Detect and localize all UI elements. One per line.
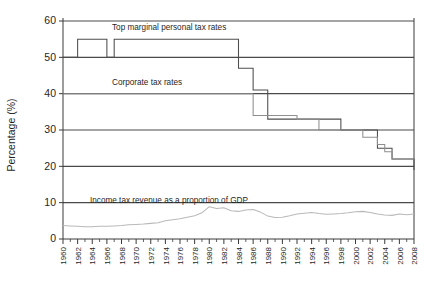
revenue-annotation: Income tax revenue as a proportion of GD… xyxy=(90,196,248,205)
corporate-annotation: Corporate tax rates xyxy=(112,78,182,87)
series-line-personal-tax xyxy=(63,39,414,170)
chart-container: 0102030405060 19601962196419661968197019… xyxy=(0,0,434,285)
x-tick-label-2008: 2008 xyxy=(410,246,419,264)
y-tick-label-40: 40 xyxy=(44,87,56,99)
y-tick-label-10: 10 xyxy=(44,196,56,208)
tax-rates-line-chart: 0102030405060 19601962196419661968197019… xyxy=(0,0,434,285)
x-tick-label-1968: 1968 xyxy=(118,246,127,264)
x-tick-label-1970: 1970 xyxy=(132,246,141,264)
x-tick-label-2004: 2004 xyxy=(381,246,390,264)
x-tick-label-1980: 1980 xyxy=(205,246,214,264)
x-tick-label-1962: 1962 xyxy=(74,246,83,264)
x-tick-label-1972: 1972 xyxy=(147,246,156,264)
x-tick-label-2006: 2006 xyxy=(396,246,405,264)
y-tick-label-50: 50 xyxy=(44,51,56,63)
x-tick-label-1994: 1994 xyxy=(308,246,317,264)
series-line-income-tax-revenue xyxy=(63,207,414,227)
x-tick-label-1978: 1978 xyxy=(191,246,200,264)
y-tick-label-60: 60 xyxy=(44,14,56,26)
x-tick-label-2000: 2000 xyxy=(352,246,361,264)
x-tick-label-1998: 1998 xyxy=(337,246,346,264)
y-tick-labels: 0102030405060 xyxy=(44,14,56,244)
y-tick-label-0: 0 xyxy=(50,232,56,244)
axis-ticks xyxy=(59,21,414,244)
x-tick-label-1988: 1988 xyxy=(264,246,273,264)
y-tick-label-20: 20 xyxy=(44,160,56,172)
x-tick-labels: 1960196219641966196819701972197419761978… xyxy=(59,246,419,264)
x-tick-label-1990: 1990 xyxy=(279,246,288,264)
x-tick-label-1966: 1966 xyxy=(103,246,112,264)
x-tick-label-1986: 1986 xyxy=(249,246,258,264)
y-axis-title: Percentage (%) xyxy=(5,99,17,172)
x-tick-label-1996: 1996 xyxy=(322,246,331,264)
personal-annotation: Top marginal personal tax rates xyxy=(112,23,226,32)
x-tick-label-2002: 2002 xyxy=(366,246,375,264)
x-tick-label-1960: 1960 xyxy=(59,246,68,264)
x-tick-label-1964: 1964 xyxy=(88,246,97,264)
series-line-corporate-tax xyxy=(63,94,414,159)
x-tick-label-1984: 1984 xyxy=(235,246,244,264)
y-tick-label-30: 30 xyxy=(44,123,56,135)
x-tick-label-1992: 1992 xyxy=(293,246,302,264)
x-tick-label-1982: 1982 xyxy=(220,246,229,264)
x-tick-label-1974: 1974 xyxy=(162,246,171,264)
x-tick-label-1976: 1976 xyxy=(176,246,185,264)
